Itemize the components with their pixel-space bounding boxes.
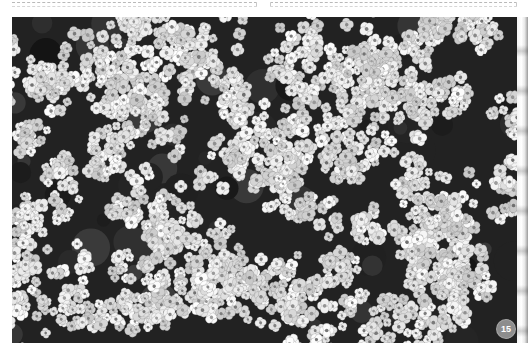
page-number-badge: 15 (497, 320, 515, 338)
flower-texture (12, 17, 517, 343)
header-placeholder-left (12, 2, 257, 7)
header-placeholder-right (270, 2, 517, 7)
next-page-edge (517, 17, 528, 343)
flower-photo (12, 17, 517, 343)
